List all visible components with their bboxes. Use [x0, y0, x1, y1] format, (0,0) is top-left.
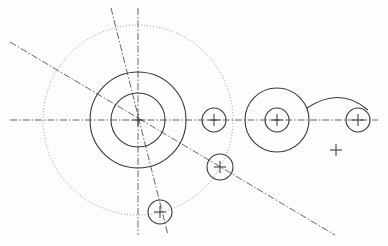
- mark-far-right-crosshair-icon: [352, 114, 364, 126]
- drawing-canvas[interactable]: [0, 0, 388, 246]
- mark-diagonal-crosshair-icon: [214, 161, 226, 173]
- mark-boss-crosshair-icon: [271, 114, 283, 126]
- cad-drawing[interactable]: [0, 0, 388, 246]
- mark-lone-crosshair-icon: [330, 144, 342, 156]
- mark-hole-right-crosshair-icon: [208, 114, 220, 126]
- angled-axis-center-line: [111, 8, 168, 235]
- mark-angled-crosshair-icon: [154, 206, 166, 218]
- center-lines-layer: [10, 8, 378, 235]
- diagonal-axis-center-line: [10, 42, 335, 235]
